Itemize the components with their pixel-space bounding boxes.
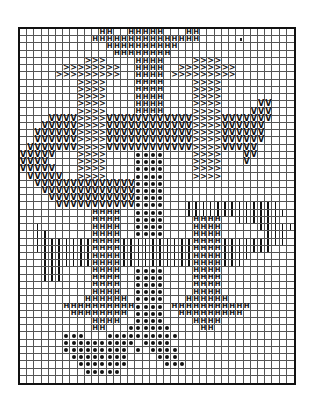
grid-cell <box>251 51 258 58</box>
grid-cell <box>229 210 236 217</box>
dot-stitch-icon <box>107 369 113 375</box>
v-stitch-icon: V <box>157 145 163 151</box>
bar-stitch-icon <box>244 210 250 216</box>
grid-cell <box>135 260 142 267</box>
grid-cell: V <box>179 145 186 152</box>
grid-cell <box>215 376 222 383</box>
grid-cell <box>114 354 121 361</box>
grid-cell <box>27 311 34 318</box>
grid-cell <box>34 29 41 36</box>
grid-cell <box>272 87 279 94</box>
grid-cell <box>287 202 294 209</box>
grid-cell <box>265 173 272 180</box>
grid-cell <box>207 347 214 354</box>
grid-cell <box>121 231 128 238</box>
grid-cell <box>287 210 294 217</box>
grid-cell <box>179 202 186 209</box>
grid-cell: H <box>78 311 85 318</box>
grid-cell <box>222 260 229 267</box>
dot-stitch-icon <box>157 311 163 317</box>
grid-cell <box>27 318 34 325</box>
grid-cell <box>229 282 236 289</box>
grid-cell <box>272 246 279 253</box>
grid-cell <box>171 87 178 94</box>
dot-stitch-icon <box>150 332 156 338</box>
h-stitch-icon: H <box>215 318 221 324</box>
grid-cell <box>27 51 34 58</box>
bar-stitch-icon <box>251 202 257 208</box>
grid-cell <box>56 347 63 354</box>
grid-cell <box>251 267 258 274</box>
grid-cell <box>20 58 27 65</box>
ink-speck <box>240 38 242 41</box>
bar-stitch-icon <box>258 210 264 216</box>
grid-cell <box>135 159 142 166</box>
grid-cell <box>135 376 142 383</box>
grid-cell <box>63 43 70 50</box>
grid-cell <box>222 87 229 94</box>
knitting-chart: HHHHHHHHHHHHHHHHHHHHHHHHHHHHHHHHHHHHHHHH… <box>18 27 296 385</box>
grid-cell <box>236 260 243 267</box>
grid-cell <box>128 376 135 383</box>
grid-cell <box>135 202 142 209</box>
grid-cell <box>42 340 49 347</box>
grid-cell: V <box>258 137 265 144</box>
grid-cell <box>179 376 186 383</box>
grid-cell <box>63 282 70 289</box>
grid-cell <box>78 239 85 246</box>
grid-cell <box>200 36 207 43</box>
bar-stitch-icon <box>164 260 170 266</box>
grid-cell <box>34 36 41 43</box>
grid-cell <box>229 181 236 188</box>
dot-stitch-icon <box>121 347 127 353</box>
grid-cell <box>121 87 128 94</box>
grid-cell <box>143 188 150 195</box>
grid-cell <box>280 173 287 180</box>
grid-cell <box>164 217 171 224</box>
grid-cell <box>128 340 135 347</box>
grid-cell <box>179 188 186 195</box>
bar-stitch-icon <box>222 202 228 208</box>
grid-cell <box>42 296 49 303</box>
grid-cell <box>222 80 229 87</box>
grid-cell <box>251 369 258 376</box>
grid-cell <box>121 369 128 376</box>
grid-cell <box>27 260 34 267</box>
grid-cell <box>128 282 135 289</box>
grid-cell <box>207 361 214 368</box>
dot-stitch-icon <box>143 325 149 331</box>
grid-cell <box>222 325 229 332</box>
bar-stitch-icon <box>186 246 192 252</box>
grid-cell <box>135 267 142 274</box>
bar-stitch-icon <box>56 275 62 281</box>
dot-stitch-icon <box>135 231 141 237</box>
grid-cell <box>258 145 265 152</box>
grid-cell <box>27 65 34 72</box>
grid-cell <box>49 304 56 311</box>
grid-cell <box>236 231 243 238</box>
grid-cell <box>49 318 56 325</box>
grid-cell <box>236 166 243 173</box>
grid-cell <box>236 369 243 376</box>
grid-cell <box>150 304 157 311</box>
grid-cell <box>78 224 85 231</box>
grid-cell <box>258 173 265 180</box>
bar-stitch-icon <box>42 275 48 281</box>
dot-stitch-icon <box>143 296 149 302</box>
dot-stitch-icon <box>114 332 120 338</box>
dot-stitch-icon <box>78 354 84 360</box>
grid-cell <box>34 260 41 267</box>
grid-cell <box>272 376 279 383</box>
grid-cell <box>157 152 164 159</box>
grid-cell <box>42 318 49 325</box>
grid-cell <box>114 152 121 159</box>
grid-cell <box>157 260 164 267</box>
h-stitch-icon: H <box>143 51 149 57</box>
bar-stitch-icon <box>63 246 69 252</box>
grid-cell <box>171 173 178 180</box>
grid-cell <box>222 173 229 180</box>
arrow-stitch-icon: > <box>107 72 113 78</box>
grid-cell <box>272 181 279 188</box>
grid-cell <box>42 267 49 274</box>
grid-cell <box>179 181 186 188</box>
